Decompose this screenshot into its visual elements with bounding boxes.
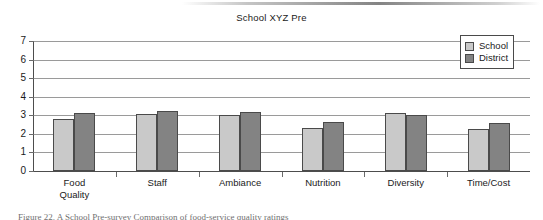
- legend-item-school: School: [465, 40, 508, 52]
- bar-district: [406, 115, 427, 171]
- y-axis-tick-label: 2: [20, 129, 26, 139]
- x-axis-tick-mark: [116, 172, 117, 177]
- bar-district: [157, 111, 178, 171]
- x-axis-tick-mark: [282, 172, 283, 177]
- figure-caption: Figure 22. A School Pre-survey Compariso…: [18, 212, 448, 220]
- bar-group: [53, 41, 95, 171]
- bar-school: [136, 114, 157, 171]
- x-axis-category-label: Food Quality: [60, 177, 90, 200]
- bar-district: [240, 112, 261, 171]
- bar-school: [385, 113, 406, 172]
- y-axis-tick-mark: [29, 97, 34, 98]
- chart-title: School XYZ Pre: [0, 12, 543, 23]
- y-axis-tick-label: 0: [20, 166, 26, 176]
- y-axis-tick-label: 4: [20, 92, 26, 102]
- gridline: [33, 115, 530, 116]
- bar-district: [74, 113, 95, 171]
- legend-item-district: District: [465, 52, 508, 64]
- bar-school: [53, 119, 74, 171]
- y-axis-tick-mark: [29, 134, 34, 135]
- bar-group: [136, 41, 178, 171]
- x-axis-category-label: Diversity: [388, 177, 424, 189]
- bar-group: [302, 41, 344, 171]
- x-axis-category-label: Nutrition: [305, 177, 340, 189]
- bar-group: [385, 41, 427, 171]
- bar-district: [489, 123, 510, 171]
- y-axis-tick-label: 1: [20, 147, 26, 157]
- x-axis-tick-mark: [364, 172, 365, 177]
- y-axis-tick-label: 3: [20, 110, 26, 120]
- x-axis-tick-mark: [447, 172, 448, 177]
- gridline: [33, 78, 530, 79]
- y-axis-tick-label: 6: [20, 55, 26, 65]
- y-axis-tick-mark: [29, 41, 34, 42]
- y-axis-tick-mark: [29, 60, 34, 61]
- x-axis-category-label: Staff: [148, 177, 167, 189]
- legend-swatch-district: [465, 54, 474, 63]
- x-axis-category-label: Ambiance: [219, 177, 261, 189]
- gridline: [33, 60, 530, 61]
- bar-school: [219, 115, 240, 171]
- y-axis-tick-mark: [29, 171, 34, 172]
- legend-label-district: District: [479, 53, 508, 63]
- gridline: [33, 152, 530, 153]
- y-axis-tick-mark: [29, 152, 34, 153]
- gridline: [33, 134, 530, 135]
- bar-school: [468, 129, 489, 171]
- y-axis-tick-mark: [29, 115, 34, 116]
- legend-label-school: School: [479, 41, 508, 51]
- bar-group: [219, 41, 261, 171]
- y-axis-tick-mark: [29, 78, 34, 79]
- gridline: [33, 97, 530, 98]
- gridline: [33, 41, 530, 42]
- chart-legend: School District: [460, 35, 514, 69]
- bar-district: [323, 122, 344, 171]
- y-axis-tick-label: 5: [20, 73, 26, 83]
- x-axis-tick-mark: [199, 172, 200, 177]
- plot-area: 01234567: [33, 41, 530, 171]
- bar-school: [302, 128, 323, 171]
- legend-swatch-school: [465, 42, 474, 51]
- x-axis-category-label: Time/Cost: [467, 177, 510, 189]
- bar-chart-figure: School XYZ Pre 01234567 School District …: [0, 0, 543, 220]
- y-axis-tick-label: 7: [20, 36, 26, 46]
